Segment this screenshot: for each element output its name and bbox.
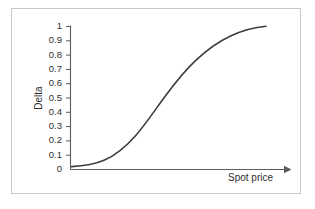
y-tick-label: 0.9 xyxy=(49,34,62,45)
x-axis-title: Spot price xyxy=(228,172,273,183)
x-axis-arrow-icon xyxy=(284,166,292,173)
y-tick-label: 0.3 xyxy=(49,120,62,131)
y-tick-label: 0.8 xyxy=(49,49,62,60)
y-tick-label: 0.6 xyxy=(49,77,62,88)
y-tick-label: 0.7 xyxy=(49,63,62,74)
y-tick-label: 0 xyxy=(57,163,62,174)
chart-page: Delta 1 0.9 0.8 0.7 0.6 0.5 0.4 0.3 0.2 … xyxy=(0,0,315,209)
y-tick-label: 0.4 xyxy=(49,106,62,117)
y-tick-label: 0.1 xyxy=(49,149,62,160)
delta-curve xyxy=(72,26,267,166)
y-tick-label: 1 xyxy=(57,20,62,31)
y-tick-label: 0.5 xyxy=(49,92,62,103)
y-tick-label: 0.2 xyxy=(49,134,62,145)
y-axis-title: Delta xyxy=(33,86,44,110)
